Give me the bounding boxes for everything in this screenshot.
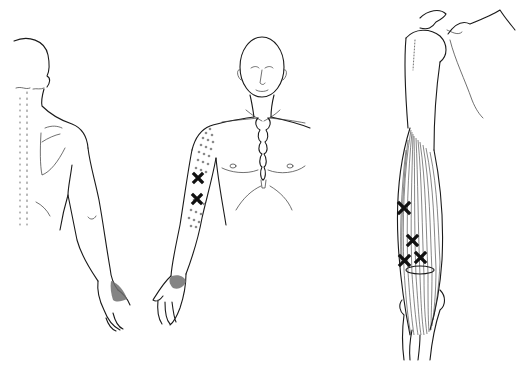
spine-dots	[20, 92, 27, 225]
muscle-fibers	[401, 130, 440, 335]
thenar-referral-shade	[169, 275, 186, 289]
dorsal-hand-referral-shade	[111, 281, 127, 302]
muscle-outline-left	[398, 128, 411, 335]
muscle-view-panel	[398, 10, 516, 360]
stipple-referral-zone	[188, 128, 215, 229]
back-view-panel	[14, 39, 130, 331]
front-view-panel	[153, 37, 310, 325]
trigger-point-x-1	[194, 174, 202, 182]
trigger-point-x-6	[416, 253, 425, 262]
anatomy-illustration	[0, 0, 529, 373]
trigger-point-x-4	[408, 236, 417, 245]
